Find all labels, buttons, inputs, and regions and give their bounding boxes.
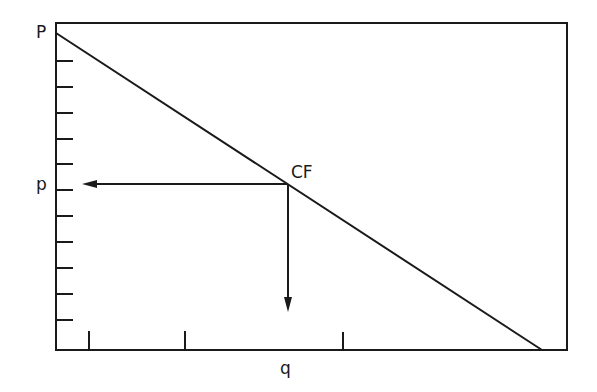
- price-level-label: p: [36, 174, 47, 194]
- y-intercept-label: P: [36, 22, 46, 42]
- x-axis-label: q: [280, 358, 291, 378]
- point-cf-label: CF: [291, 162, 313, 182]
- x-axis-ticks: [89, 331, 343, 350]
- y-axis-ticks: [56, 61, 73, 320]
- demand-diagram: P p CF q: [0, 0, 597, 392]
- plot-frame: [56, 23, 567, 350]
- arrow-left-icon: [82, 180, 97, 188]
- demand-line: [56, 33, 542, 350]
- arrow-down-icon: [284, 297, 292, 312]
